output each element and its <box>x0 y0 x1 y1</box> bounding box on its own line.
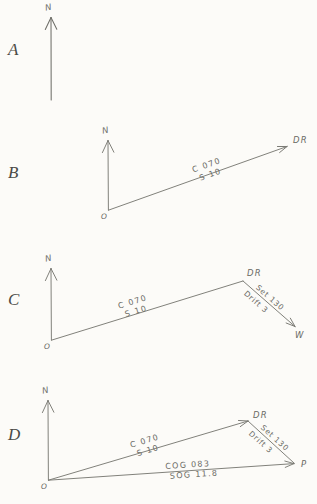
figure-canvas: A N B N O DR C 070 S 10 C N O DR C 070 S… <box>0 0 317 504</box>
panel-c-current-vector <box>243 281 297 329</box>
panel-b-origin-label: O <box>101 212 108 221</box>
panel-letter-c: C <box>8 290 19 310</box>
panel-b-dr-label: DR <box>293 135 308 145</box>
panel-letter-b: B <box>8 163 18 183</box>
panel-d-dr-label: DR <box>253 410 268 420</box>
panel-d-origin-label: O <box>41 482 48 491</box>
panel-c-north-arrow <box>45 269 57 341</box>
panel-d-north-arrow <box>42 401 54 481</box>
panel-c-origin-label: O <box>44 342 51 351</box>
panel-d-cog-annotation: COG 083 SOG 11.8 <box>165 459 219 482</box>
panel-c-w-label: W <box>295 330 305 340</box>
panel-c-dr-label: DR <box>247 268 262 278</box>
panel-a-north-arrow <box>45 18 57 101</box>
panel-letter-d: D <box>8 425 20 445</box>
panel-b-north-arrow <box>102 141 114 211</box>
panel-letter-a: A <box>8 40 18 60</box>
panel-d-p-label: P <box>301 459 307 469</box>
